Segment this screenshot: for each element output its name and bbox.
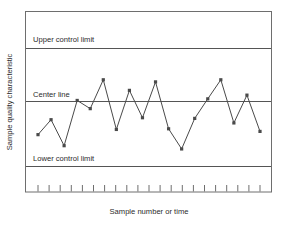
data-point-marker [76,99,79,102]
y-axis-title: Sample quality characteristic [5,53,14,150]
data-point-marker [63,144,66,147]
lower-control-limit-label: Lower control limit [33,154,95,163]
data-point-marker [102,78,105,81]
chart-background [0,0,285,225]
control-chart: Upper control limit Center line Lower co… [0,0,285,225]
data-point-marker [180,147,183,150]
data-point-marker [206,97,209,100]
upper-control-limit-label: Upper control limit [33,35,95,44]
data-point-marker [49,118,52,121]
data-point-marker [128,89,131,92]
data-point-marker [219,78,222,81]
x-axis-ticks [38,185,260,192]
data-point-marker [154,80,157,83]
data-point-marker [115,128,118,131]
data-point-marker [193,117,196,120]
control-chart-svg: Upper control limit Center line Lower co… [0,0,285,225]
x-axis-title: Sample number or time [110,207,189,216]
data-point-marker [232,121,235,124]
data-point-marker [245,94,248,97]
data-point-marker [167,127,170,130]
data-point-marker [89,107,92,110]
data-point-marker [258,130,261,133]
data-point-marker [141,116,144,119]
data-point-marker [36,133,39,136]
center-line-label: Center line [33,90,70,99]
